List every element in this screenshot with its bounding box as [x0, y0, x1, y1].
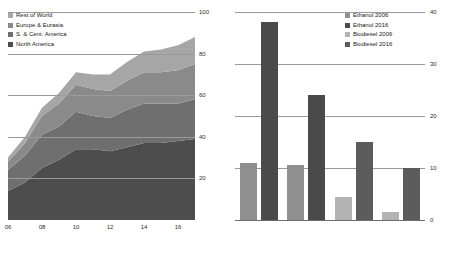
bar — [287, 165, 304, 220]
y-axis-tick-label: 0 — [430, 217, 433, 223]
gridline — [8, 95, 195, 96]
area-chart-panel: Rest of WorldEurope & EurasiaS. & Cent. … — [0, 0, 229, 256]
bar — [308, 95, 325, 220]
bar — [356, 142, 373, 220]
gridline — [8, 54, 195, 55]
x-axis-tick-label: 12 — [100, 224, 120, 230]
bar — [382, 212, 399, 220]
stacked-area-series — [8, 12, 195, 220]
y-axis-tick-label: 100 — [199, 9, 209, 15]
y-axis-tick-label: 40 — [199, 134, 206, 140]
y-axis-tick-label: 10 — [430, 165, 437, 171]
bar — [261, 22, 278, 220]
x-axis-baseline — [235, 220, 425, 221]
bar — [335, 197, 352, 220]
y-axis-tick-label: 40 — [430, 9, 437, 15]
y-axis-tick-label: 20 — [430, 113, 437, 119]
bar-chart-panel: Ethanol 2006Ethanol 2016Biodiesel 2006Bi… — [229, 0, 458, 256]
x-axis-tick-label: 08 — [32, 224, 52, 230]
x-axis-tick-label: 16 — [168, 224, 188, 230]
y-axis-tick-label: 60 — [199, 92, 206, 98]
bar — [240, 163, 257, 220]
x-axis-tick-label: 06 — [0, 224, 18, 230]
x-axis-tick-label: 10 — [66, 224, 86, 230]
gridline — [8, 137, 195, 138]
area-plot-area — [8, 12, 195, 220]
gridline — [8, 12, 195, 13]
bar-plot-area — [235, 12, 425, 220]
y-axis-tick-label: 20 — [199, 175, 206, 181]
y-axis-tick-label: 30 — [430, 61, 437, 67]
charts-page: Rest of WorldEurope & EurasiaS. & Cent. … — [0, 0, 458, 256]
y-axis-tick-label: 80 — [199, 51, 206, 57]
x-axis-tick-label: 14 — [134, 224, 154, 230]
bar — [403, 168, 420, 220]
gridline — [8, 178, 195, 179]
gridline — [235, 12, 425, 13]
